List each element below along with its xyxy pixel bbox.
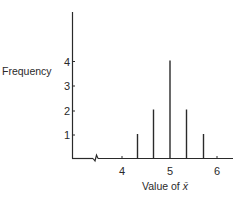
x-tick-4: 4 xyxy=(119,165,125,177)
frequency-chart: 1 2 3 4 4 5 6 Frequency Value of x̄ xyxy=(0,0,243,199)
y-tick-4: 4 xyxy=(64,56,70,68)
y-tick-3: 3 xyxy=(64,80,70,92)
y-ticks: 1 2 3 4 xyxy=(64,56,75,142)
y-tick-2: 2 xyxy=(64,105,70,117)
axis-break-icon xyxy=(93,155,98,161)
x-tick-5: 5 xyxy=(167,165,173,177)
y-axis-label: Frequency xyxy=(2,65,52,77)
x-ticks: 4 5 6 xyxy=(119,156,220,177)
x-axis-label: Value of x̄ xyxy=(142,180,189,192)
x-tick-6: 6 xyxy=(214,165,220,177)
bars xyxy=(138,61,204,159)
y-tick-1: 1 xyxy=(64,129,70,141)
